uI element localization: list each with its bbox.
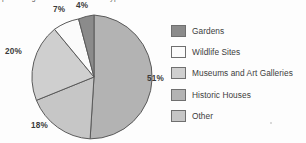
pie-slice-historic-houses (90, 15, 152, 139)
cropped-title-strip: percentage of visits to different types … (0, 0, 306, 3)
legend-swatch-other (171, 110, 186, 122)
pie-label-wildlife-sites: 7% (53, 5, 65, 14)
legend-item-historic-houses: Historic Houses (171, 88, 305, 101)
pie-label-historic-houses: 51% (147, 74, 164, 83)
cropped-title-text: percentage of visits to different types … (0, 0, 306, 3)
legend-label-museums: Museums and Art Galleries (192, 68, 293, 78)
legend-item-wildlife-sites: Wildlife Sites (171, 45, 305, 58)
legend-label-historic-houses: Historic Houses (192, 90, 251, 100)
pie-chart-figure: percentage of visits to different types … (0, 0, 306, 143)
legend-swatch-museums (171, 67, 186, 79)
pie-label-gardens: 4% (76, 1, 88, 10)
legend-label-wildlife-sites: Wildlife Sites (192, 47, 240, 57)
legend-swatch-gardens (171, 25, 186, 37)
legend: Gardens Wildlife Sites Museums and Art G… (171, 24, 305, 131)
pie-label-other: 18% (31, 121, 48, 130)
legend-item-gardens: Gardens (171, 24, 305, 37)
legend-item-museums: Museums and Art Galleries (171, 67, 305, 80)
scan-artifact-speck (270, 122, 272, 124)
legend-label-gardens: Gardens (192, 26, 224, 36)
pie-svg (30, 13, 158, 141)
legend-swatch-historic-houses (171, 89, 186, 101)
legend-swatch-wildlife-sites (171, 46, 186, 58)
legend-item-other: Other (171, 110, 305, 123)
pie-chart (30, 13, 158, 141)
legend-label-other: Other (192, 111, 213, 121)
pie-label-museums: 20% (5, 47, 22, 56)
